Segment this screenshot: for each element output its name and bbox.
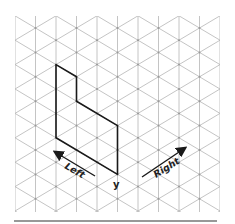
left-label: Left [63,160,87,180]
isometric-grid [0,0,235,224]
isometric-diagram: Left Right y [0,0,235,224]
right-label: Right [151,155,182,180]
vertex-label-y: y [113,179,120,190]
